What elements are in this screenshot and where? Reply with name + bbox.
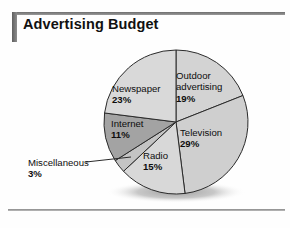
slice-percent-television: 29% [180, 138, 222, 149]
slice-label-internet: Internet 11% [111, 118, 144, 141]
footer-rule [8, 209, 285, 211]
slice-label-outdoor-advertising: Outdoor advertising 19% [176, 70, 222, 104]
pie-chart-svg [0, 0, 290, 228]
slice-name-outdoor-line2: advertising [176, 81, 222, 92]
slice-percent-radio: 15% [143, 161, 168, 172]
slice-name-radio: Radio [143, 150, 168, 161]
slice-name-outdoor-line1: Outdoor [176, 70, 222, 81]
slice-percent-newspaper: 23% [112, 94, 161, 105]
pie-chart: Newspaper 23% Outdoor advertising 19% Te… [0, 0, 290, 228]
slice-percent-outdoor: 19% [176, 93, 222, 104]
slice-name-miscellaneous: Miscellaneous [28, 157, 89, 168]
slice-label-miscellaneous: Miscellaneous 3% [28, 157, 89, 180]
slice-label-radio: Radio 15% [143, 150, 168, 173]
slice-percent-miscellaneous: 3% [28, 168, 89, 179]
advertising-budget-figure: Advertising Budget Newspaper 23% [0, 0, 290, 228]
slice-label-newspaper: Newspaper 23% [112, 83, 161, 106]
slice-percent-internet: 11% [111, 129, 144, 140]
slice-name-television: Television [180, 127, 222, 138]
slice-name-internet: Internet [111, 118, 144, 129]
slice-label-television: Television 29% [180, 127, 222, 150]
slice-name-newspaper: Newspaper [112, 83, 161, 94]
